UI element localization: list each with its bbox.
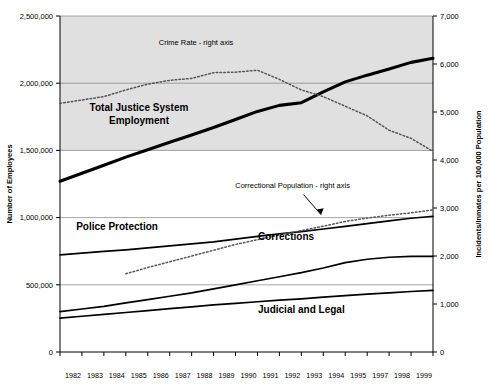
y-tick-label: 1,500,000 bbox=[20, 146, 53, 155]
x-tick-label: 1998 bbox=[394, 371, 410, 380]
justice-employment-chart: 0500,0001,000,0001,500,0002,000,0002,500… bbox=[0, 0, 488, 388]
y-tick-label: 2,500,000 bbox=[20, 12, 53, 21]
y-tick-label: 0 bbox=[49, 348, 53, 357]
y-tick-label: 2,000,000 bbox=[20, 79, 53, 88]
y2-tick-label: 6,000 bbox=[440, 60, 459, 69]
y2-tick-label: 7,000 bbox=[440, 12, 459, 21]
y-tick-label: 500,000 bbox=[26, 281, 53, 290]
y2-tick-label: 2,000 bbox=[440, 252, 459, 261]
x-tick-label: 1982 bbox=[65, 371, 81, 380]
y-tick-label: 1,000,000 bbox=[20, 213, 53, 222]
legend-annotation: Correctional Population - right axis bbox=[235, 181, 350, 190]
x-tick-label: 1988 bbox=[197, 371, 213, 380]
x-tick-label: 1991 bbox=[262, 371, 278, 380]
x-tick-label: 1984 bbox=[109, 371, 125, 380]
y2-tick-label: 5,000 bbox=[440, 108, 459, 117]
series-label: Police Protection bbox=[76, 221, 158, 232]
x-tick-label: 1990 bbox=[241, 371, 257, 380]
legend-annotation: Crime Rate - right axis bbox=[159, 38, 234, 47]
x-tick-label: 1986 bbox=[153, 371, 169, 380]
x-tick-label: 1997 bbox=[372, 371, 388, 380]
y2-tick-label: 0 bbox=[440, 348, 444, 357]
x-tick-label: 1983 bbox=[87, 371, 103, 380]
chart-container: 0500,0001,000,0001,500,0002,000,0002,500… bbox=[0, 0, 488, 388]
x-tick-label: 1993 bbox=[306, 371, 322, 380]
x-tick-label: 1987 bbox=[175, 371, 191, 380]
series-label: Judicial and Legal bbox=[258, 304, 345, 315]
x-tick-label: 1992 bbox=[284, 371, 300, 380]
x-tick-label: 1994 bbox=[328, 371, 344, 380]
x-tick-label: 1999 bbox=[416, 371, 432, 380]
x-tick-label: 1989 bbox=[219, 371, 235, 380]
series-label: Total Justice System bbox=[90, 102, 189, 113]
y2-tick-label: 3,000 bbox=[440, 204, 459, 213]
series-label: Corrections bbox=[258, 231, 315, 242]
y2-axis-title: Incidents/Inmates per 100,000 Population bbox=[474, 110, 483, 258]
series-label: Employment bbox=[109, 115, 170, 126]
x-tick-label: 1995 bbox=[350, 371, 366, 380]
x-tick-label: 1985 bbox=[131, 371, 147, 380]
y2-tick-label: 1,000 bbox=[440, 300, 459, 309]
y2-tick-label: 4,000 bbox=[440, 156, 459, 165]
y-axis-title: Number of Employees bbox=[5, 144, 14, 223]
